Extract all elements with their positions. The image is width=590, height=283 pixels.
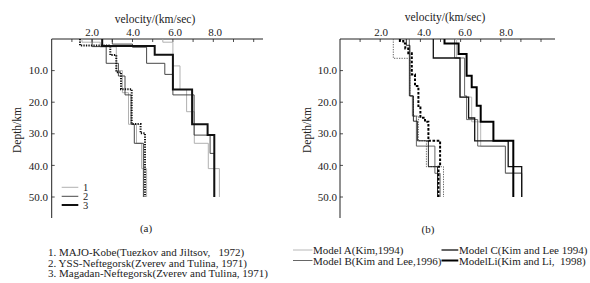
panel-a-xtick-label: 8.0: [208, 26, 222, 38]
panel-b-y-axis-title: Depth/km: [301, 107, 314, 153]
panel-b-x-axis-title: velocity/(km/sec): [405, 11, 486, 24]
panel-b-xtick-label: 2.0: [374, 26, 388, 38]
panel-a-label: (a): [140, 222, 153, 235]
panel-b-ytick-label: 20.0: [318, 96, 338, 108]
panel-b-ytick-label: 10.0: [318, 64, 338, 76]
panel-a-ytick-label: 50.0: [29, 191, 49, 203]
panel-a-ytick-label: 10.0: [29, 64, 49, 76]
legend-model-li-label: ModelLi(Kim and Li, 1998): [459, 255, 586, 268]
legend-model-b-label: Model B(Kim and Lee,1996): [313, 255, 442, 268]
legend-label-3: 3: [83, 200, 88, 211]
panel-b-ytick-label: 50.0: [318, 191, 338, 203]
panel-a-caption-3: 3. Magadan-Neftegorsk(Zverev and Tulina,…: [48, 267, 268, 280]
panel-a-ytick-label: 30.0: [29, 127, 49, 139]
velocity-depth-figure: velocity/(km/sec) 2.0 4.0 6.0 8.0 10.0 2…: [0, 0, 590, 283]
panel-b-xtick-label: 6.0: [458, 26, 472, 38]
panel-b-xtick-label: 8.0: [499, 26, 513, 38]
panel-b-label: (b): [422, 223, 435, 236]
panel-a-xtick-label: 4.0: [126, 26, 140, 38]
panel-a-ytick-label: 40.0: [29, 160, 49, 172]
panel-a-y-axis-title: Depth/km: [11, 107, 24, 153]
panel-b-ytick-label: 30.0: [318, 127, 338, 139]
panel-a-x-axis-title: velocity/(km/sec): [115, 13, 196, 26]
panel-b-xtick-label: 4.0: [417, 26, 431, 38]
panel-a-xtick-label: 6.0: [168, 26, 182, 38]
panel-a-xtick-label: 2.0: [85, 26, 99, 38]
panel-b-ytick-label: 40.0: [318, 160, 338, 172]
panel-a-ytick-label: 20.0: [29, 96, 49, 108]
